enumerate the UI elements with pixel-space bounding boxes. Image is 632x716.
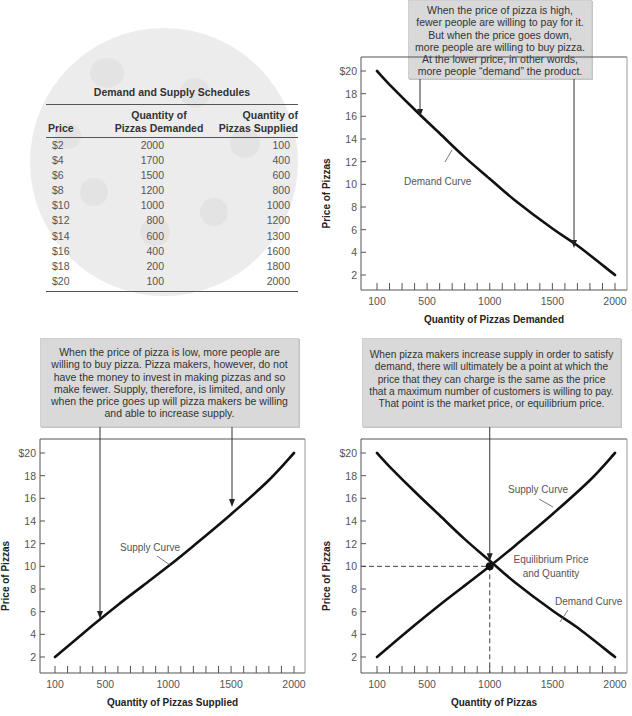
y-tick-label: 10: [345, 560, 357, 572]
callout-arrow-right-arrowhead-icon: [229, 499, 235, 507]
y-tick-label: 14: [345, 133, 357, 145]
x-tick-label: 1500: [541, 678, 565, 690]
x-tick-label: 1000: [478, 295, 502, 307]
y-tick-label: 14: [24, 515, 36, 527]
y-tick-label: 2: [351, 651, 357, 663]
supply-chart: 24681012141618$20100500100015002000Quant…: [0, 427, 306, 708]
x-axis-title: Quantity of Pizzas Supplied: [107, 697, 238, 708]
y-tick-label: 4: [351, 628, 357, 640]
y-tick-label: 18: [24, 470, 36, 482]
y-tick-label: 16: [345, 492, 357, 504]
x-tick-label: 1000: [157, 678, 181, 690]
x-tick-label: 2000: [603, 678, 627, 690]
demand-chart: 24681012141618$20100500100015002000Quant…: [321, 57, 627, 325]
x-tick-label: 100: [46, 678, 64, 690]
y-tick-label: $20: [339, 447, 357, 459]
y-tick-label: 14: [345, 515, 357, 527]
supply-curve-label: Supply Curve: [120, 542, 180, 553]
y-tick-label: 2: [351, 269, 357, 281]
x-axis-title: Quantity of Pizzas Demanded: [424, 314, 564, 325]
y-tick-label: $20: [18, 447, 36, 459]
y-tick-label: 12: [345, 538, 357, 550]
y-tick-label: 12: [345, 156, 357, 168]
y-tick-label: 6: [30, 606, 36, 618]
x-tick-label: 500: [418, 678, 436, 690]
y-tick-label: 8: [351, 583, 357, 595]
equilibrium-chart: 24681012141618$20100500100015002000Quant…: [321, 427, 627, 708]
y-axis-title: Price of Pizzas: [0, 541, 11, 611]
x-tick-label: 100: [368, 295, 386, 307]
charts-canvas: 24681012141618$20100500100015002000Quant…: [0, 0, 632, 716]
y-tick-label: 6: [351, 606, 357, 618]
y-axis-title: Price of Pizzas: [321, 541, 332, 611]
x-tick-label: 2000: [603, 295, 627, 307]
y-tick-label: 16: [345, 110, 357, 122]
x-tick-label: 2000: [282, 678, 306, 690]
y-axis-title: Price of Pizzas: [321, 158, 332, 228]
y-tick-label: 8: [30, 583, 36, 595]
x-tick-label: 1500: [219, 678, 243, 690]
x-axis-title: Quantity of Pizzas: [451, 697, 538, 708]
y-tick-label: 4: [351, 246, 357, 258]
y-tick-label: 10: [24, 560, 36, 572]
x-tick-label: 100: [368, 678, 386, 690]
y-tick-label: 8: [351, 201, 357, 213]
y-tick-label: 16: [24, 492, 36, 504]
equilibrium-point: [486, 562, 494, 570]
x-tick-label: 1000: [478, 678, 502, 690]
demand-curve: [377, 71, 615, 275]
x-tick-label: 500: [418, 295, 436, 307]
y-tick-label: 18: [345, 470, 357, 482]
y-tick-label: 12: [24, 538, 36, 550]
demand-curve-label: Demand Curve: [404, 176, 472, 187]
y-tick-label: $20: [339, 65, 357, 77]
x-tick-label: 500: [97, 678, 115, 690]
equilibrium-label-line1: Equilibrium Price: [513, 554, 588, 565]
supply-curve: [55, 453, 294, 657]
x-tick-label: 1500: [541, 295, 565, 307]
y-tick-label: 18: [345, 88, 357, 100]
demand-curve-label: Demand Curve: [555, 596, 623, 607]
supply-curve-label: Supply Curve: [508, 484, 568, 495]
y-tick-label: 4: [30, 628, 36, 640]
y-tick-label: 10: [345, 178, 357, 190]
equilibrium-label-line2: and Quantity: [523, 568, 580, 579]
y-tick-label: 6: [351, 224, 357, 236]
y-tick-label: 2: [30, 651, 36, 663]
